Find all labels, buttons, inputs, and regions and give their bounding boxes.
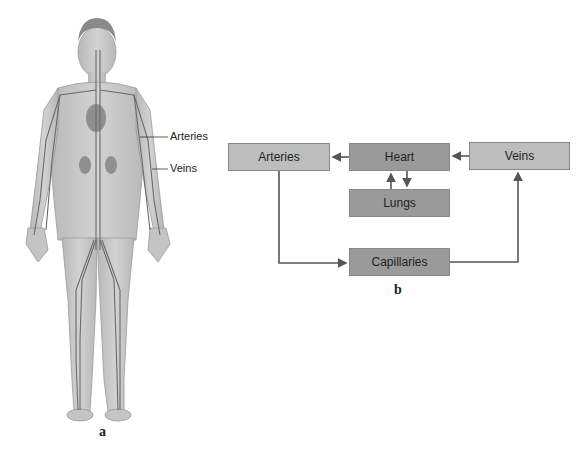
node-heart: Heart (349, 143, 450, 171)
node-capillaries: Capillaries (349, 248, 450, 276)
node-arteries: Arteries (228, 143, 330, 171)
node-lungs: Lungs (349, 189, 450, 217)
node-heart-label: Heart (385, 150, 414, 164)
node-capillaries-label: Capillaries (371, 255, 427, 269)
node-lungs-label: Lungs (383, 196, 416, 210)
panel-label-b: b (394, 282, 402, 298)
node-arteries-label: Arteries (258, 150, 299, 164)
flow-connectors (0, 0, 585, 453)
node-veins: Veins (469, 142, 570, 170)
node-veins-label: Veins (505, 149, 534, 163)
